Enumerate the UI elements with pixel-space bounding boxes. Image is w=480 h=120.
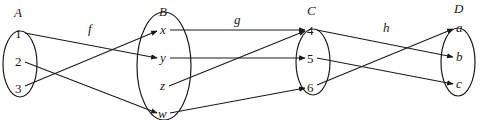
set-c-element-4: 4 — [307, 23, 314, 38]
function-h-label: h — [383, 20, 390, 35]
set-d-element-b: b — [456, 49, 463, 64]
function-f-label: f — [88, 21, 94, 36]
set-d-element-a: a — [456, 20, 463, 35]
set-d: D a b c — [441, 1, 475, 96]
arrow-f-1-to-y — [25, 33, 157, 58]
set-a-element-3: 3 — [15, 81, 22, 96]
function-g-label: g — [234, 12, 241, 27]
set-a-element-2: 2 — [15, 54, 22, 69]
set-c-element-6: 6 — [307, 80, 314, 95]
set-c-label: C — [307, 3, 316, 18]
set-b-element-y: y — [158, 50, 166, 65]
set-b-element-w: w — [158, 106, 167, 120]
arrow-h-6-to-a — [317, 29, 453, 85]
set-b-element-x: x — [159, 22, 166, 37]
set-c-element-5: 5 — [307, 51, 314, 66]
set-b: B x y z w — [137, 4, 191, 120]
set-a-label: A — [13, 5, 22, 20]
arrow-h-5-to-c — [317, 58, 453, 84]
function-g-arrows — [169, 30, 305, 113]
set-b-element-z: z — [159, 78, 165, 93]
set-d-label: D — [453, 1, 464, 16]
mapping-diagram: A 1 2 3 B x y z w C 4 5 6 D a b c f g h — [0, 0, 480, 120]
set-d-element-c: c — [456, 76, 462, 91]
arrow-g-w-to-6 — [170, 88, 305, 113]
function-h-arrows — [317, 29, 453, 85]
set-a-element-1: 1 — [15, 26, 22, 41]
